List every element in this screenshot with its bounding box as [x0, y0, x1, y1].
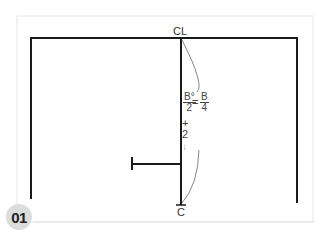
equals-sign: = — [192, 96, 198, 108]
measure-arc-bottom — [182, 150, 199, 203]
c-label: C — [177, 206, 185, 218]
outer-frame — [17, 16, 313, 222]
pattern-diagram — [0, 0, 321, 237]
cl-label: CL — [173, 25, 187, 37]
step-badge: 01 — [6, 204, 32, 230]
addend: 2 — [182, 128, 188, 140]
fraction-right: B 4 — [200, 92, 209, 113]
pattern-outline — [31, 38, 297, 203]
down-arrow-icon: ↓ — [182, 141, 187, 152]
right-denominator: 4 — [202, 103, 208, 113]
measure-arc-top — [182, 40, 199, 92]
